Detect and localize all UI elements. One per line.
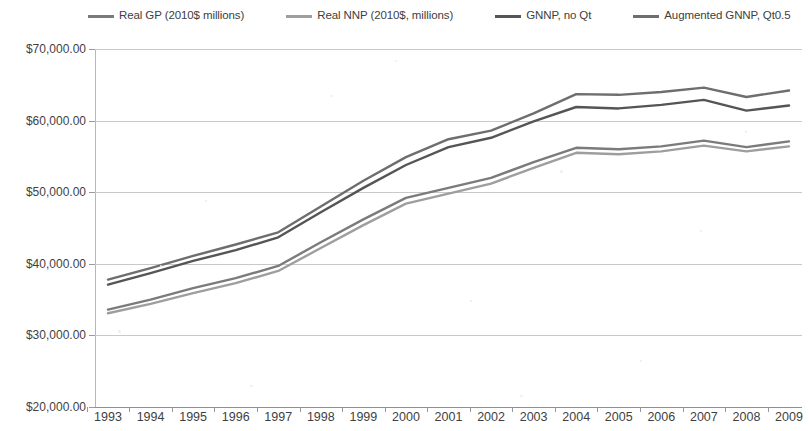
legend-label-augmented-gnnp: Augmented GNNP, Qt0.5 — [664, 10, 790, 22]
x-axis-tick-label: 1996 — [222, 410, 250, 424]
y-axis-tick — [89, 192, 95, 193]
gridline — [95, 192, 802, 193]
x-axis-tick — [640, 407, 641, 412]
legend-swatch-gnnp-no-qt — [495, 15, 521, 18]
x-axis-tick-label: 1999 — [349, 410, 377, 424]
gridline — [95, 121, 802, 122]
x-axis-line — [95, 407, 802, 408]
chart-legend: Real GP (2010$ millions) Real NNP (2010$… — [88, 4, 803, 28]
x-axis-tick — [342, 407, 343, 412]
y-axis-tick — [89, 335, 95, 336]
x-axis-tick — [172, 407, 173, 412]
x-axis-tick-label: 1993 — [94, 410, 122, 424]
y-axis-tick-label: $70,000.00 — [0, 42, 86, 56]
x-axis-tick — [725, 407, 726, 412]
legend-label-real-nnp: Real NNP (2010$, millions) — [317, 10, 453, 22]
x-axis-tick-label: 2009 — [775, 410, 803, 424]
scan-fleck — [640, 360, 642, 362]
legend-swatch-real-nnp — [286, 15, 312, 18]
scan-fleck — [205, 200, 207, 202]
x-axis-tick — [470, 407, 471, 412]
x-axis-tick-label: 1997 — [264, 410, 292, 424]
x-axis-tick — [683, 407, 684, 412]
legend-label-real-gp: Real GP (2010$ millions) — [119, 10, 244, 22]
scan-fleck — [560, 170, 563, 173]
legend-swatch-augmented-gnnp — [633, 15, 659, 18]
x-axis-tick-label: 2008 — [733, 410, 761, 424]
scan-fleck — [395, 60, 397, 62]
y-axis-tick-label: $50,000.00 — [0, 185, 86, 199]
x-axis-tick — [597, 407, 598, 412]
x-axis-tick-label: 2004 — [562, 410, 590, 424]
legend-item-augmented-gnnp: Augmented GNNP, Qt0.5 — [633, 10, 790, 22]
scan-fleck — [745, 130, 747, 133]
legend-swatch-real-gp — [88, 15, 114, 18]
y-axis-tick-label: $30,000.00 — [0, 328, 86, 342]
x-axis-tick — [129, 407, 130, 412]
series-layer — [0, 0, 809, 431]
x-axis-tick — [555, 407, 556, 412]
scan-fleck — [250, 385, 253, 387]
x-axis-tick — [768, 407, 769, 412]
x-axis-tick — [512, 407, 513, 412]
y-axis-tick-label: $20,000.00 — [0, 400, 86, 414]
x-axis-tick-label: 2001 — [435, 410, 463, 424]
x-axis-tick-label: 2002 — [477, 410, 505, 424]
y-axis-tick-label: $40,000.00 — [0, 257, 86, 271]
x-axis-tick-label: 2000 — [392, 410, 420, 424]
y-axis-line — [95, 49, 96, 407]
scan-fleck — [520, 395, 523, 397]
y-axis-tick-label: $60,000.00 — [0, 114, 86, 128]
gridline — [95, 49, 802, 50]
scan-fleck — [330, 95, 333, 97]
x-axis-tick — [257, 407, 258, 412]
x-axis-tick — [214, 407, 215, 412]
x-axis-tick — [385, 407, 386, 412]
x-axis-tick-label: 1994 — [137, 410, 165, 424]
gridline — [95, 264, 802, 265]
legend-item-real-nnp: Real NNP (2010$, millions) — [286, 10, 453, 22]
x-axis-tick-label: 2007 — [690, 410, 718, 424]
legend-label-gnnp-no-qt: GNNP, no Qt — [526, 10, 591, 22]
x-axis-tick — [87, 407, 88, 412]
x-axis-tick-label: 2005 — [605, 410, 633, 424]
series-line — [108, 88, 789, 280]
x-axis-tick-label: 1998 — [307, 410, 335, 424]
scan-fleck — [118, 330, 121, 333]
x-axis-tick — [427, 407, 428, 412]
y-axis-tick — [89, 264, 95, 265]
line-chart: Real GP (2010$ millions) Real NNP (2010$… — [0, 0, 809, 431]
series-line — [108, 146, 789, 314]
x-axis-tick-label: 2003 — [520, 410, 548, 424]
series-line — [108, 141, 789, 310]
y-axis-tick — [89, 49, 95, 50]
x-axis-tick-label: 2006 — [647, 410, 675, 424]
legend-item-real-gp: Real GP (2010$ millions) — [88, 10, 244, 22]
scan-fleck — [470, 300, 472, 302]
legend-item-gnnp-no-qt: GNNP, no Qt — [495, 10, 591, 22]
scan-fleck — [160, 265, 162, 267]
scan-fleck — [700, 230, 702, 232]
y-axis-tick — [89, 121, 95, 122]
gridline — [95, 335, 802, 336]
x-axis-tick-label: 1995 — [179, 410, 207, 424]
x-axis-tick — [300, 407, 301, 412]
